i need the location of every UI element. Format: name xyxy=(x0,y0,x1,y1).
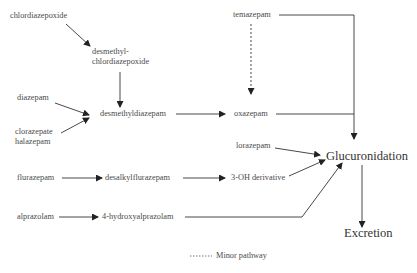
node-lorazepam: lorazepam xyxy=(236,141,271,151)
edge-4hydroxyalprazolam xyxy=(185,163,342,217)
node-glucuronidation: Glucuronidation xyxy=(326,149,408,163)
edge-chlordiazepoxide-desmethyl xyxy=(66,24,90,46)
node-flurazepam: flurazepam xyxy=(17,173,54,183)
edge-lorazepam xyxy=(275,148,320,155)
node-desmethyldiazepam: desmethyldiazepam xyxy=(100,109,166,119)
node-excretion: Excretion xyxy=(344,226,393,240)
legend-minor-pathway: Minor pathway xyxy=(216,251,267,261)
node-oxazepam: oxazepam xyxy=(234,109,268,119)
node-4-hydroxyalprazolam: 4-hydroxyalprazolam xyxy=(102,212,173,222)
node-alprazolam: alprazolam xyxy=(17,212,54,222)
node-3oh-derivative: 3-OH derivative xyxy=(231,173,285,183)
edge-temazepam-glucuronidation xyxy=(279,15,354,139)
edge-diazepam xyxy=(55,103,89,115)
node-clorazepate: clorazepate xyxy=(15,127,53,137)
node-halazepam: halazepam xyxy=(15,137,50,147)
edge-3oh xyxy=(289,160,325,176)
node-desmethyl-line1: desmethyl- xyxy=(92,47,129,57)
node-chlordiazepoxide: chlordiazepoxide xyxy=(10,11,67,21)
node-desalkylflurazepam: desalkylflurazepam xyxy=(105,173,170,183)
node-desmethyl-line2: chlordiazepoxide xyxy=(92,57,149,67)
edge-clorazepate xyxy=(61,118,89,133)
node-temazepam: temazepam xyxy=(233,10,271,20)
node-diazepam: diazepam xyxy=(17,93,49,103)
